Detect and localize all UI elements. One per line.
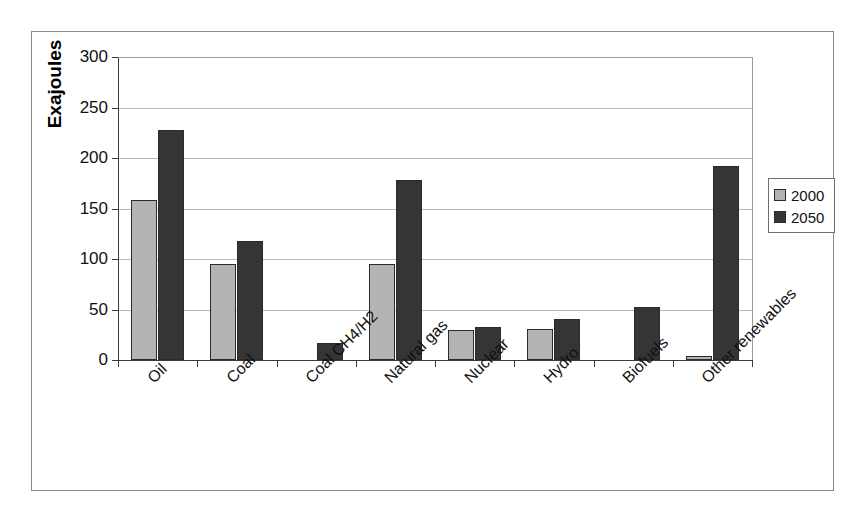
y-axis-title: Exajoules	[44, 14, 68, 154]
x-tick-mark	[435, 360, 436, 367]
y-tick-label: 0	[56, 351, 108, 368]
legend-swatch-2050	[774, 211, 786, 223]
chart-figure: Exajoules 050100150200250300 OilCoalCoal…	[0, 0, 863, 518]
y-tick-label: 100	[56, 250, 108, 267]
x-tick-mark	[277, 360, 278, 367]
bars-layer	[118, 57, 752, 360]
legend-item-2050: 2050	[774, 206, 834, 228]
y-tick-label: 150	[56, 200, 108, 217]
bar-2000-coal	[210, 264, 236, 360]
plot-right-edge	[752, 57, 753, 360]
bar-2000-other-renewables	[686, 356, 712, 360]
x-tick-mark	[752, 360, 753, 367]
x-tick-mark	[594, 360, 595, 367]
legend: 20002050	[768, 178, 835, 233]
bar-2050-other-renewables	[713, 166, 739, 360]
x-tick-mark	[514, 360, 515, 367]
bar-2050-oil	[158, 130, 184, 360]
x-tick-mark	[197, 360, 198, 367]
legend-item-2000: 2000	[774, 184, 834, 206]
legend-label-2050: 2050	[791, 210, 824, 225]
x-tick-mark	[356, 360, 357, 367]
y-tick-label: 300	[56, 48, 108, 65]
bar-2000-nuclear	[448, 330, 474, 360]
bar-2050-coal	[237, 241, 263, 360]
bar-2050-natural-gas	[396, 180, 422, 360]
bar-2000-oil	[131, 200, 157, 360]
y-tick-label: 200	[56, 149, 108, 166]
y-tick-label: 50	[56, 301, 108, 318]
y-tick-label: 250	[56, 99, 108, 116]
legend-label-2000: 2000	[791, 188, 824, 203]
bar-2000-hydro	[527, 329, 553, 360]
x-tick-mark	[118, 360, 119, 367]
x-tick-mark	[673, 360, 674, 367]
legend-swatch-2000	[774, 189, 786, 201]
